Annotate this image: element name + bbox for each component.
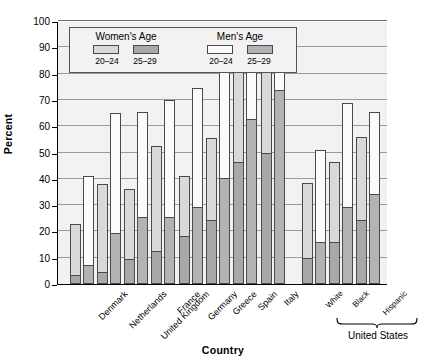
x-tick-label-denmark: Denmark	[96, 289, 129, 322]
x-tick-label-netherlands: Netherlands	[127, 289, 168, 330]
y-tick-label-90: 90	[0, 43, 50, 53]
bar-segment-25-29	[220, 178, 229, 283]
bar-men-netherlands	[110, 113, 121, 284]
bar-segment-25-29	[343, 207, 352, 283]
y-tick-label-100: 100	[0, 17, 50, 27]
bar-group-hispanic	[356, 22, 380, 284]
bar-women-spain	[233, 53, 244, 284]
y-tick-label-60: 60	[0, 122, 50, 132]
legend-label-men-20-24: 20–24	[205, 56, 237, 66]
legend-men-captions: 20–24 25–29	[188, 56, 292, 66]
y-tick-mark-0	[52, 285, 57, 286]
y-tick-label-40: 40	[0, 175, 50, 185]
legend-women-captions: 20–24 25–29	[74, 56, 178, 66]
bar-segment-25-29	[180, 236, 189, 283]
bar-segment-25-29	[247, 119, 256, 283]
legend-group-men: Men's Age 20–24 25–29	[188, 31, 292, 66]
bar-men-greece	[219, 70, 230, 284]
bar-women-france	[151, 146, 162, 284]
bar-segment-25-29	[84, 265, 93, 283]
y-tick-label-80: 80	[0, 70, 50, 80]
bar-men-hispanic	[369, 112, 380, 284]
legend-women-swatches	[74, 45, 178, 54]
legend-swatch-men-25-29	[247, 45, 273, 54]
bar-segment-25-29	[316, 242, 325, 283]
bar-segment-25-29	[303, 258, 312, 283]
legend-label-women-25-29: 25–29	[129, 56, 161, 66]
bar-segment-25-29	[330, 242, 339, 283]
x-tick-label-black: Black	[351, 289, 371, 309]
bar-segment-25-29	[125, 259, 134, 283]
bar-segment-25-29	[193, 207, 202, 283]
legend-men-swatches	[188, 45, 292, 54]
y-tick-label-0: 0	[0, 280, 50, 290]
bar-chart: Percent 0102030405060708090100 Women's A…	[0, 0, 446, 363]
chart-legend: Women's Age 20–24 25–29 Men's Age 20–24	[69, 27, 297, 73]
legend-group-women-title: Women's Age	[74, 31, 178, 42]
bar-women-italy	[261, 49, 272, 284]
y-tick-label-20: 20	[0, 227, 50, 237]
y-tick-label-50: 50	[0, 149, 50, 159]
bar-men-black	[342, 103, 353, 284]
bar-segment-25-29	[98, 272, 107, 283]
bar-segment-20-24	[98, 185, 107, 283]
legend-label-men-25-29: 25–29	[243, 56, 275, 66]
bar-segment-25-29	[111, 233, 120, 283]
y-tick-label-70: 70	[0, 96, 50, 106]
united-states-caption: United States	[318, 330, 438, 341]
y-tick-label-30: 30	[0, 201, 50, 211]
x-axis-label: Country	[0, 344, 446, 356]
gridline-100	[58, 20, 387, 21]
bar-women-black	[329, 162, 340, 284]
bar-segment-25-29	[152, 251, 161, 283]
bar-segment-25-29	[234, 162, 243, 283]
x-tick-label-white: White	[324, 289, 345, 310]
legend-swatch-women-25-29	[133, 45, 159, 54]
bar-segment-25-29	[138, 217, 147, 283]
legend-swatch-men-20-24	[207, 45, 233, 54]
united-states-brace	[336, 318, 418, 328]
bar-women-hispanic	[356, 137, 367, 284]
bar-women-denmark	[70, 224, 81, 284]
bar-group-white	[302, 22, 326, 284]
legend-group-men-title: Men's Age	[188, 31, 292, 42]
legend-label-women-20-24: 20–24	[91, 56, 123, 66]
bar-men-france	[164, 100, 175, 284]
bar-women-netherlands	[97, 184, 108, 284]
x-tick-label-spain: Spain	[256, 289, 279, 312]
legend-swatch-women-20-24	[93, 45, 119, 54]
bar-group-black	[329, 22, 353, 284]
plot-area: Women's Age 20–24 25–29 Men's Age 20–24	[57, 22, 387, 285]
bar-men-united-kingdom	[137, 112, 148, 284]
bar-segment-25-29	[275, 90, 284, 283]
bar-men-germany	[192, 88, 203, 284]
y-tick-label-10: 10	[0, 254, 50, 264]
bar-men-white	[315, 150, 326, 284]
bar-women-greece	[206, 138, 217, 284]
bar-men-denmark	[83, 176, 94, 284]
bar-segment-25-29	[370, 194, 379, 283]
bar-segment-25-29	[262, 153, 271, 283]
bar-women-germany	[179, 176, 190, 284]
x-tick-label-hispanic: Hispanic	[381, 289, 409, 317]
x-tick-label-italy: Italy	[281, 289, 300, 308]
bar-segment-25-29	[165, 217, 174, 283]
bar-segment-25-29	[207, 220, 216, 283]
bar-segment-25-29	[357, 220, 366, 283]
bar-women-united-kingdom	[124, 189, 135, 284]
bar-women-white	[302, 183, 313, 284]
bar-segment-25-29	[71, 275, 80, 283]
legend-group-women: Women's Age 20–24 25–29	[74, 31, 178, 66]
